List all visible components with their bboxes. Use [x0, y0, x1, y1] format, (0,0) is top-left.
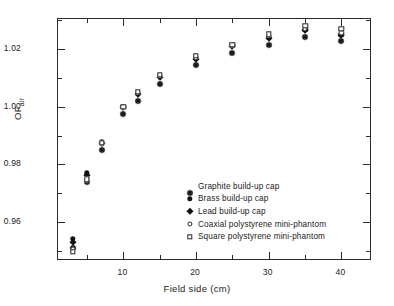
y-tick	[58, 193, 62, 194]
legend-label: Lead build-up cap	[198, 207, 266, 216]
y-tick	[58, 78, 62, 79]
y-tick-label: 0.98	[4, 158, 21, 168]
x-tick-top	[196, 19, 197, 26]
legend-item: Brass build-up cap	[182, 193, 326, 206]
marker-open-square	[266, 32, 271, 37]
y-tick	[58, 222, 65, 223]
x-tick-top	[232, 19, 233, 23]
legend-label: Brass build-up cap	[198, 194, 269, 203]
legend-marker	[182, 180, 198, 193]
marker-open-circle	[187, 221, 192, 226]
marker-open-square	[135, 89, 140, 94]
x-axis-title: Field side (cm)	[0, 283, 394, 294]
x-tick-label: 30	[256, 267, 280, 277]
legend-item: Square polystyrene mini-phantom	[182, 230, 326, 243]
marker-open-square	[84, 177, 89, 182]
x-tick	[160, 255, 161, 259]
x-tick-top	[123, 19, 124, 26]
y-tick	[58, 107, 65, 108]
y-tick-label: 1.02	[4, 43, 21, 53]
x-tick	[196, 252, 197, 259]
marker-star-asterisk	[187, 183, 194, 190]
x-tick	[341, 252, 342, 259]
marker-open-square	[70, 249, 75, 254]
chart-figure: OFair Field side (cm) 0.960.981.001.02 1…	[0, 0, 394, 306]
marker-open-square	[157, 72, 162, 77]
chart-legend: Graphite build-up capBrass build-up capL…	[182, 180, 326, 243]
legend-item: Coaxial polystyrene mini-phantom	[182, 218, 326, 231]
y-tick-label: 0.96	[4, 216, 21, 226]
x-tick-label: 40	[328, 267, 352, 277]
y-tick	[58, 164, 65, 165]
legend-label: Coaxial polystyrene mini-phantom	[198, 220, 326, 229]
x-tick	[232, 255, 233, 259]
y-tick-right	[363, 49, 370, 50]
legend-item: Lead build-up cap	[182, 205, 326, 218]
y-tick	[58, 20, 62, 21]
y-tick-right	[366, 20, 370, 21]
y-tick-right	[363, 164, 370, 165]
y-tick-right	[366, 193, 370, 194]
x-tick-top	[160, 19, 161, 23]
marker-open-square	[121, 104, 126, 109]
legend-marker	[182, 230, 198, 243]
marker-open-square	[339, 26, 344, 31]
y-tick	[58, 136, 62, 137]
legend-label: Graphite build-up cap	[198, 182, 279, 191]
marker-open-square	[187, 234, 192, 239]
marker-open-square	[193, 53, 198, 58]
x-tick-top	[87, 19, 88, 23]
y-tick-right	[363, 222, 370, 223]
y-tick-right	[363, 107, 370, 108]
marker-open-square	[99, 140, 104, 145]
marker-open-square	[230, 42, 235, 47]
legend-marker	[182, 218, 198, 231]
legend-marker	[182, 193, 198, 206]
x-tick	[123, 252, 124, 259]
x-tick-top	[269, 19, 270, 26]
marker-filled-diamond	[187, 208, 193, 214]
legend-label: Square polystyrene mini-phantom	[198, 232, 325, 241]
legend-item: Graphite build-up cap	[182, 180, 326, 193]
legend-marker	[182, 205, 198, 218]
y-tick-label: 1.00	[4, 101, 21, 111]
marker-open-square	[302, 23, 307, 28]
marker-filled-circle	[187, 196, 192, 201]
x-tick	[269, 252, 270, 259]
x-tick	[87, 255, 88, 259]
y-tick-right	[366, 136, 370, 137]
x-tick	[305, 255, 306, 259]
y-tick	[58, 251, 62, 252]
x-tick-label: 20	[183, 267, 207, 277]
y-tick	[58, 49, 65, 50]
y-tick-right	[366, 78, 370, 79]
y-tick-right	[366, 251, 370, 252]
x-tick-label: 10	[110, 267, 134, 277]
